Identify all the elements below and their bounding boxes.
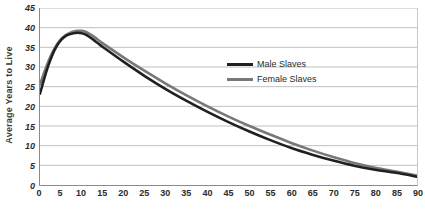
x-tick-label: 20 [118, 188, 128, 198]
x-tick-label: 25 [139, 188, 149, 198]
plot-svg [40, 8, 417, 185]
x-tick-label: 0 [36, 188, 41, 198]
x-tick-label: 35 [181, 188, 191, 198]
x-tick-label: 40 [202, 188, 212, 198]
plot-area [39, 8, 418, 186]
y-tick-label: 15 [25, 122, 35, 132]
x-tick-label: 60 [287, 188, 297, 198]
y-axis-tick-labels: 051015202530354045 [16, 8, 37, 186]
x-tick-label: 30 [160, 188, 170, 198]
y-tick-label: 20 [25, 102, 35, 112]
y-tick-label: 10 [25, 141, 35, 151]
series-line [40, 31, 417, 176]
y-tick-label: 0 [30, 181, 35, 191]
x-tick-label: 5 [58, 188, 63, 198]
x-tick-label: 85 [392, 188, 402, 198]
line-chart: Average Years to Live 051015202530354045… [0, 0, 425, 216]
x-axis-tick-labels: 051015202530354045505560657075808590 [39, 188, 418, 206]
y-tick-label: 25 [25, 82, 35, 92]
x-tick-label: 45 [223, 188, 233, 198]
y-tick-label: 30 [25, 62, 35, 72]
legend-entry: Male Slaves [227, 58, 317, 70]
x-tick-label: 90 [413, 188, 423, 198]
x-tick-label: 75 [350, 188, 360, 198]
x-tick-label: 70 [329, 188, 339, 198]
legend-swatch [227, 63, 253, 66]
x-tick-label: 15 [97, 188, 107, 198]
y-axis-title-label: Average Years to Live [4, 46, 14, 143]
x-tick-label: 80 [371, 188, 381, 198]
gridlines [40, 8, 417, 165]
series-line [40, 33, 417, 177]
chart-legend: Male SlavesFemale Slaves [227, 58, 317, 85]
legend-label: Female Slaves [257, 74, 317, 84]
legend-entry: Female Slaves [227, 73, 317, 85]
x-tick-label: 65 [308, 188, 318, 198]
y-tick-label: 5 [30, 161, 35, 171]
x-tick-label: 50 [245, 188, 255, 198]
x-tick-label: 55 [266, 188, 276, 198]
series-lines [40, 31, 417, 177]
y-tick-label: 45 [25, 3, 35, 13]
y-tick-label: 40 [25, 23, 35, 33]
legend-swatch [227, 78, 253, 81]
legend-label: Male Slaves [257, 59, 306, 69]
x-tick-label: 10 [76, 188, 86, 198]
y-tick-label: 35 [25, 43, 35, 53]
